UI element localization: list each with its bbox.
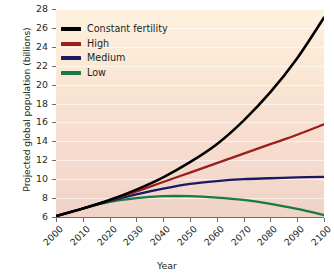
y-axis-tick-label: 20 [18, 80, 48, 89]
legend-item: High [61, 37, 211, 52]
y-axis-tick-label: 14 [18, 137, 48, 146]
y-axis-tick-mark [52, 85, 56, 86]
legend-label: High [87, 39, 109, 49]
chart-legend: Constant fertilityHighMediumLow [61, 22, 211, 80]
y-axis-tick-label: 10 [18, 174, 48, 183]
y-axis-tick-mark [52, 198, 56, 199]
x-axis-tick-mark [190, 218, 191, 222]
x-axis-tick-label: 2090 [279, 224, 305, 250]
legend-item: Low [61, 66, 211, 81]
x-axis-tick-label: 2060 [199, 224, 225, 250]
legend-swatch-icon [61, 71, 81, 75]
x-axis-tick-label: 2010 [65, 224, 91, 250]
y-axis-tick-mark [52, 141, 56, 142]
y-axis-tick-mark [52, 47, 56, 48]
series-line [56, 124, 324, 216]
x-axis-tick-mark [217, 218, 218, 222]
x-axis-tick-mark [163, 218, 164, 222]
y-axis-tick-labels: 6810121416182022242628 [18, 8, 48, 220]
x-axis-tick-mark [297, 218, 298, 222]
x-axis-tick-mark [270, 218, 271, 222]
legend-label: Medium [87, 53, 125, 63]
legend-swatch-icon [61, 56, 81, 60]
y-axis-tick-label: 12 [18, 156, 48, 165]
y-axis-tick-mark [52, 122, 56, 123]
x-axis-tick-mark [136, 218, 137, 222]
series-line [56, 196, 324, 216]
y-axis-tick-mark [52, 160, 56, 161]
x-axis-tick-mark [83, 218, 84, 222]
x-axis-tick-label: 2050 [172, 224, 198, 250]
x-axis-tick-mark [324, 218, 325, 222]
legend-swatch-icon [61, 42, 81, 46]
legend-item: Constant fertility [61, 22, 211, 37]
x-axis-tick-label: 2000 [38, 224, 64, 250]
chart-figure: Projected global population (billions) 6… [0, 0, 334, 278]
y-axis-tick-label: 6 [18, 212, 48, 221]
y-axis-tick-label: 24 [18, 42, 48, 51]
y-axis-tick-label: 28 [18, 4, 48, 13]
y-axis-tick-mark [52, 9, 56, 10]
y-axis-tick-mark [52, 66, 56, 67]
legend-label: Constant fertility [87, 24, 168, 34]
x-axis-tick-label: 2070 [226, 224, 252, 250]
y-axis-tick-label: 8 [18, 193, 48, 202]
x-axis-tick-mark [110, 218, 111, 222]
legend-item: Medium [61, 51, 211, 66]
y-axis-tick-mark [52, 28, 56, 29]
legend-label: Low [87, 68, 106, 78]
x-axis-tick-mark [56, 218, 57, 222]
y-axis-tick-label: 16 [18, 118, 48, 127]
x-axis-tick-label: 2030 [119, 224, 145, 250]
x-axis-tick-label: 2040 [145, 224, 171, 250]
x-axis-tick-label: 2100 [306, 224, 332, 250]
x-axis-tick-label: 2020 [92, 224, 118, 250]
y-axis-tick-mark [52, 104, 56, 105]
x-axis-tick-label: 2080 [253, 224, 279, 250]
y-axis-tick-label: 22 [18, 61, 48, 70]
x-axis-tick-mark [244, 218, 245, 222]
x-axis-title: Year [0, 260, 334, 271]
y-axis-tick-label: 26 [18, 23, 48, 32]
legend-swatch-icon [61, 27, 81, 31]
y-axis-tick-label: 18 [18, 99, 48, 108]
y-axis-tick-mark [52, 179, 56, 180]
